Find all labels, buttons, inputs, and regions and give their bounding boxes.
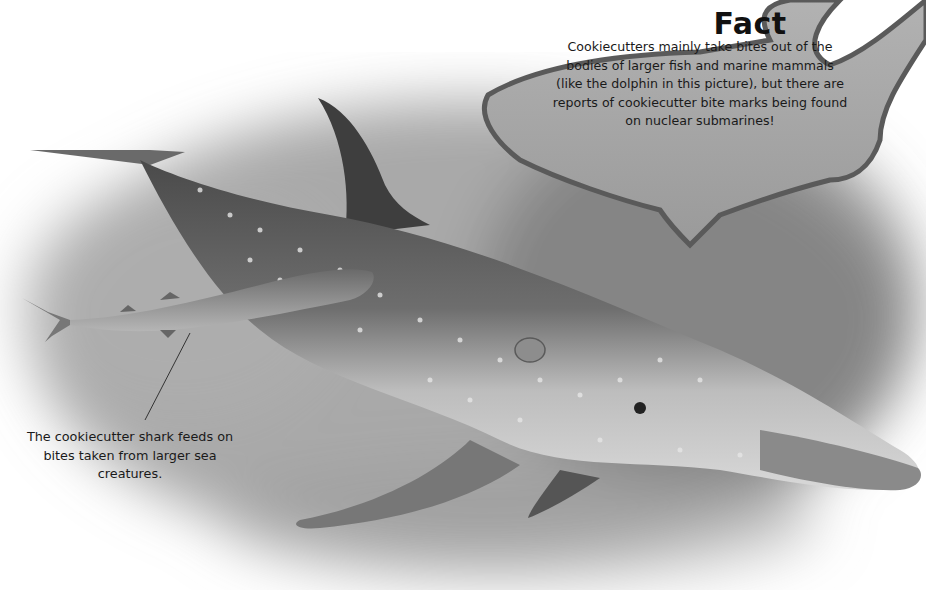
fact-title: Fact <box>660 6 840 41</box>
shark-caption: The cookiecutter shark feeds on bites ta… <box>14 428 246 484</box>
fact-text: Cookiecutters mainly take bites out of t… <box>552 38 848 131</box>
